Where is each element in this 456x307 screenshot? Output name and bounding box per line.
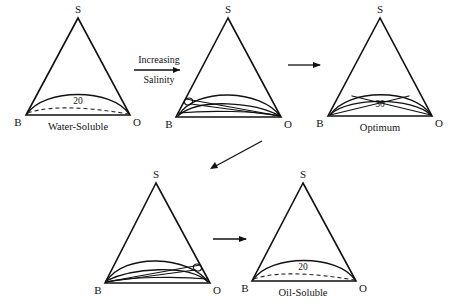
arrow-shaft: [212, 141, 262, 168]
panel-transition-right: S B O: [94, 168, 221, 296]
arrow-increasing-salinity: Increasing Salinity: [134, 54, 180, 85]
vertex-label-s: S: [153, 168, 159, 180]
salinity-label-top: Increasing: [138, 54, 180, 65]
vertex-label-s: S: [225, 3, 231, 15]
panel-oil-soluble: 20 S B O Oil-Soluble: [241, 168, 367, 298]
curve-label-20: 20: [298, 262, 308, 272]
curve-label-20: 20: [73, 96, 83, 106]
phase-behavior-figure: 20 S B O Water-Soluble Increasing Salini…: [0, 0, 456, 307]
tie-line-2: [352, 96, 431, 115]
tie-line-3: [106, 277, 208, 282]
vertex-label-s: S: [300, 168, 306, 180]
panel-caption-water-soluble: Water-Soluble: [48, 121, 109, 132]
ternary-triangle-outline: [176, 18, 281, 117]
salinity-arrow-head: [173, 67, 180, 73]
vertex-label-o: O: [213, 284, 221, 296]
arrow-top-right: [288, 62, 321, 68]
vertex-label-b: B: [165, 118, 172, 130]
tie-line-dashed: [28, 108, 129, 114]
panel-caption-optimum: Optimum: [360, 122, 400, 133]
tie-line-dashed: [254, 274, 355, 280]
arrow-diagonal: [210, 141, 262, 169]
curve-label-30: 30: [375, 99, 385, 109]
vertex-label-o: O: [359, 282, 367, 294]
tie-line-3: [178, 111, 280, 116]
panel-transition-left: S B O: [165, 3, 292, 130]
salinity-label-bottom: Salinity: [143, 74, 174, 85]
panel-caption-oil-soluble: Oil-Soluble: [279, 287, 328, 298]
vertex-label-b: B: [316, 117, 323, 129]
arrow-head: [313, 62, 321, 68]
tie-line-1: [330, 96, 409, 115]
vertex-label-b: B: [14, 116, 21, 128]
vertex-label-o: O: [435, 117, 443, 129]
arrow-bottom: [213, 236, 247, 242]
vertex-label-b: B: [94, 284, 101, 296]
vertex-label-b: B: [241, 282, 248, 294]
arrow-head: [239, 236, 247, 242]
vertex-label-s: S: [75, 3, 81, 15]
vertex-label-o: O: [284, 118, 292, 130]
vertex-label-o: O: [133, 116, 141, 128]
panel-water-soluble: 20 S B O Water-Soluble: [14, 3, 141, 132]
vertex-label-s: S: [377, 3, 383, 15]
panel-optimum: 30 S B O Optimum: [316, 3, 443, 133]
